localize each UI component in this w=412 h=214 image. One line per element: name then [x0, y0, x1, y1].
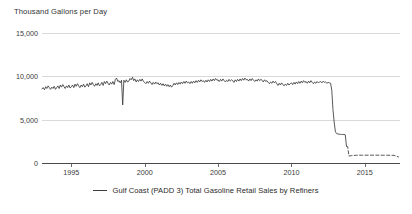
- series-svg: [42, 33, 400, 163]
- y-tick-label: 15,000: [0, 29, 38, 38]
- y-tick-label: 0: [0, 159, 38, 168]
- chart-container: Thousand Gallons per Day 05,00010,00015,…: [0, 0, 412, 214]
- y-axis-title: Thousand Gallons per Day: [14, 7, 107, 16]
- chart-legend: Gulf Coast (PADD 3) Total Gasoline Retai…: [0, 186, 412, 195]
- legend-line-swatch: [93, 190, 107, 191]
- plot-area: [42, 33, 400, 163]
- x-tick-mark: [145, 164, 146, 167]
- y-tick-label: 10,000: [0, 72, 38, 81]
- x-tick-label: 2005: [210, 168, 226, 177]
- x-tick-label: 2010: [283, 168, 299, 177]
- x-tick-mark: [365, 164, 366, 167]
- x-tick-label: 1995: [63, 168, 79, 177]
- x-tick-mark: [218, 164, 219, 167]
- x-axis-tick-labels: 19952000200520102015: [42, 164, 400, 182]
- legend-item-label: Gulf Coast (PADD 3) Total Gasoline Retai…: [112, 186, 318, 195]
- x-tick-mark: [291, 164, 292, 167]
- series-line-0: [42, 77, 346, 146]
- x-tick-mark: [71, 164, 72, 167]
- x-tick-label: 2015: [357, 168, 373, 177]
- y-tick-label: 5,000: [0, 115, 38, 124]
- series-line-1: [346, 146, 398, 157]
- x-tick-label: 2000: [137, 168, 153, 177]
- y-axis-tick-labels: 05,00010,00015,000: [0, 33, 38, 163]
